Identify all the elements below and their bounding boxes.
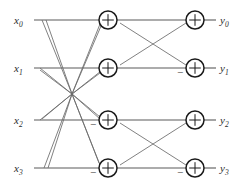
input-labels: x0 x1 x2 x3 <box>13 14 23 177</box>
line-x1-to-adder-s1-r3 <box>40 70 99 163</box>
output-label-y1: y1 <box>219 62 229 77</box>
output-stubs <box>204 20 216 168</box>
adder-s1-r0[interactable] <box>99 11 117 29</box>
output-labels: y0 y1 y2 y3 <box>219 14 229 177</box>
adder-s2-r2[interactable] <box>186 111 204 129</box>
output-label-y2: y2 <box>219 114 229 129</box>
line-x2-to-adder-s1-r0 <box>40 24 100 120</box>
butterfly-diagram: − − − − x0 <box>0 0 238 189</box>
stage2-straight-lines <box>117 20 186 168</box>
output-label-y0: y0 <box>219 14 229 29</box>
minus-sign-adder-s1-r3: − <box>90 166 96 178</box>
input-label-x2: x2 <box>13 114 23 129</box>
input-label-x1: x1 <box>13 62 23 77</box>
stage1-cross-lines <box>40 20 101 168</box>
minus-sign-adder-s2-r1: − <box>177 66 183 78</box>
adder-s2-r0[interactable] <box>186 11 204 29</box>
adder-s1-r1[interactable] <box>99 59 117 77</box>
adder-s1-r3[interactable]: − <box>90 159 117 178</box>
minus-sign-adder-s1-r2: − <box>90 118 96 130</box>
minus-sign-adder-s2-r3: − <box>177 166 183 178</box>
stage1-straight-lines <box>34 20 99 168</box>
input-label-x3: x3 <box>13 162 23 177</box>
signal-flow-graph: − − − − x0 <box>0 0 238 189</box>
stage2-cross-lines <box>120 23 186 165</box>
line-x1-to-adder-s1-r2 <box>40 68 100 119</box>
input-label-x0: x0 <box>13 14 23 29</box>
output-label-y3: y3 <box>219 162 229 177</box>
